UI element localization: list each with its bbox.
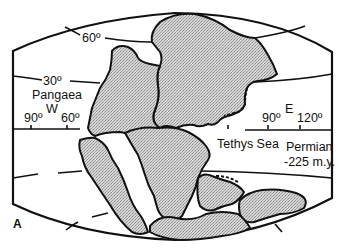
longitude-90e-label: 90º xyxy=(262,111,281,125)
east-label: E xyxy=(285,102,293,116)
australia-landmass xyxy=(239,189,306,222)
longitude-60w-label: 60º xyxy=(61,111,80,125)
pangaea-label: Pangaea xyxy=(32,88,82,102)
india-landmass xyxy=(197,174,244,210)
latitude-60s-line xyxy=(66,213,108,230)
laurasia-landmass xyxy=(152,14,277,128)
age-label: -225 m.y. xyxy=(284,155,335,169)
latitude-30s-east-line xyxy=(200,171,332,178)
pangaea-map: 60º 30º Pangaea W 90º 60º E 90º 120º Tet… xyxy=(0,0,349,251)
period-label: Permian xyxy=(286,140,333,154)
longitude-120e-label: 120º xyxy=(297,111,323,125)
latitude-60-label: 60º xyxy=(82,31,101,45)
west-label: W xyxy=(46,102,58,116)
tethys-sea-label: Tethys Sea xyxy=(217,137,279,151)
north-america-landmass xyxy=(88,46,160,136)
panel-label: A xyxy=(13,217,22,231)
latitude-30s-line xyxy=(13,171,82,178)
latitude-30-label: 30º xyxy=(43,74,62,88)
longitude-south-mark xyxy=(275,224,282,232)
longitude-90w-label: 90º xyxy=(24,111,43,125)
africa-landmass xyxy=(125,128,210,221)
